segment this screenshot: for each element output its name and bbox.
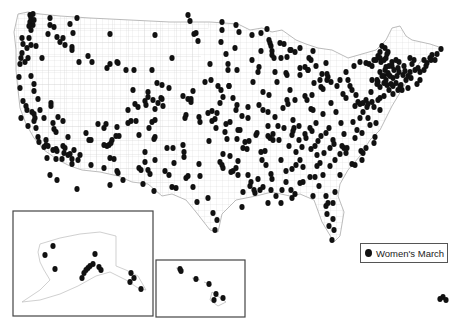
march-location-dot bbox=[160, 103, 165, 109]
march-location-dot bbox=[332, 157, 337, 163]
march-location-dot bbox=[291, 125, 296, 131]
march-location-dot bbox=[320, 172, 325, 178]
march-location-dot bbox=[18, 115, 23, 121]
march-location-dot bbox=[393, 80, 398, 86]
march-location-dot bbox=[368, 89, 373, 95]
march-location-dot bbox=[285, 101, 290, 107]
march-location-dot bbox=[278, 55, 283, 61]
march-location-dot bbox=[268, 171, 273, 177]
march-location-dot bbox=[305, 67, 310, 73]
march-location-dot bbox=[396, 59, 401, 65]
march-location-dot bbox=[319, 71, 324, 77]
march-location-dot bbox=[296, 123, 301, 129]
march-location-dot bbox=[328, 79, 333, 85]
march-location-dot bbox=[312, 174, 317, 180]
march-location-dot bbox=[246, 138, 251, 144]
march-location-dot bbox=[330, 200, 335, 206]
march-location-dot bbox=[219, 27, 224, 33]
march-location-dot bbox=[17, 61, 22, 67]
march-location-dot bbox=[54, 177, 59, 183]
march-location-dot bbox=[225, 67, 230, 73]
march-location-dot bbox=[127, 279, 132, 285]
legend: Women's March bbox=[360, 243, 448, 263]
march-location-dot bbox=[438, 46, 443, 52]
march-location-dot bbox=[88, 162, 93, 168]
march-location-dot bbox=[212, 227, 217, 233]
march-location-dot bbox=[255, 69, 260, 75]
march-location-dot bbox=[269, 48, 274, 54]
march-location-dot bbox=[323, 60, 328, 66]
march-location-dot bbox=[320, 86, 325, 92]
march-location-dot bbox=[232, 45, 237, 51]
march-location-dot bbox=[443, 297, 448, 303]
march-location-dot bbox=[62, 42, 67, 48]
march-location-dot bbox=[224, 136, 229, 142]
march-location-dot bbox=[235, 172, 240, 178]
march-location-dot bbox=[399, 87, 404, 93]
march-location-dot bbox=[313, 63, 318, 69]
march-location-dot bbox=[135, 104, 140, 110]
march-location-dot bbox=[150, 97, 155, 103]
march-location-dot bbox=[35, 134, 40, 140]
march-location-dot bbox=[210, 210, 215, 216]
march-location-dot bbox=[74, 15, 79, 21]
march-location-dot bbox=[209, 118, 214, 124]
march-location-dot bbox=[270, 131, 275, 137]
march-location-dot bbox=[45, 31, 50, 37]
march-location-dot bbox=[51, 24, 56, 30]
march-location-dot bbox=[350, 119, 355, 125]
march-location-dot bbox=[367, 122, 372, 128]
march-location-dot bbox=[215, 83, 220, 89]
march-location-dot bbox=[408, 75, 413, 81]
march-location-dot bbox=[239, 113, 244, 119]
march-location-dot bbox=[33, 43, 38, 49]
alaska-inset bbox=[13, 211, 153, 316]
march-location-dot bbox=[357, 59, 362, 65]
march-location-dot bbox=[101, 165, 106, 171]
march-location-dot bbox=[275, 123, 280, 129]
march-location-dot bbox=[220, 151, 225, 157]
march-location-dot bbox=[152, 32, 157, 38]
march-location-dot bbox=[39, 55, 44, 61]
march-location-dot bbox=[297, 45, 302, 51]
march-location-dot bbox=[329, 237, 334, 243]
march-location-dot bbox=[69, 47, 74, 53]
march-location-dot bbox=[54, 34, 59, 40]
march-location-dot bbox=[37, 107, 42, 113]
march-location-dot bbox=[19, 50, 24, 56]
march-location-dot bbox=[140, 181, 145, 187]
march-location-dot bbox=[369, 77, 374, 83]
march-location-dot bbox=[351, 63, 356, 69]
march-location-dot bbox=[293, 149, 298, 155]
march-location-dot bbox=[70, 30, 75, 36]
march-location-dot bbox=[53, 156, 58, 162]
march-location-dot bbox=[402, 68, 407, 74]
march-location-dot bbox=[188, 96, 193, 102]
march-location-dot bbox=[292, 49, 297, 55]
march-location-dot bbox=[281, 41, 286, 47]
march-location-dot bbox=[213, 291, 218, 297]
march-location-dot bbox=[415, 65, 420, 71]
march-location-dot bbox=[234, 67, 239, 73]
march-location-dot bbox=[213, 125, 218, 131]
march-location-dot bbox=[292, 97, 297, 103]
march-location-dot bbox=[280, 105, 285, 111]
march-location-dot bbox=[256, 64, 261, 70]
march-location-dot bbox=[307, 174, 312, 180]
march-location-dot bbox=[143, 102, 148, 108]
march-location-dot bbox=[74, 186, 79, 192]
march-location-dot bbox=[123, 67, 128, 73]
march-location-dot bbox=[69, 161, 74, 167]
march-location-dot bbox=[202, 79, 207, 85]
march-location-dot bbox=[197, 119, 202, 125]
march-location-dot bbox=[297, 72, 302, 78]
march-location-dot bbox=[50, 243, 55, 249]
march-location-dot bbox=[325, 200, 330, 206]
hawaii-inset-border bbox=[156, 260, 245, 317]
march-location-dot bbox=[205, 195, 210, 201]
march-location-dot bbox=[197, 173, 202, 179]
march-location-dot bbox=[142, 159, 147, 165]
march-location-dot bbox=[297, 157, 302, 163]
march-location-dot bbox=[244, 146, 249, 152]
march-location-dot bbox=[341, 131, 346, 137]
